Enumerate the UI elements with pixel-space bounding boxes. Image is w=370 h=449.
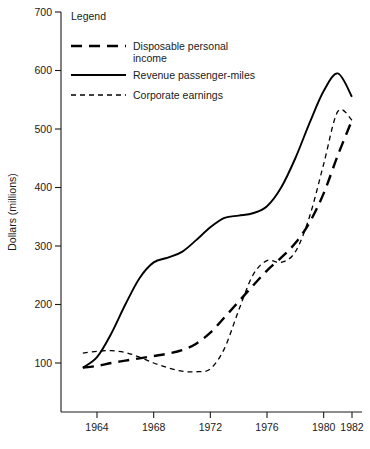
- x-tick-label: 1982: [340, 421, 364, 433]
- chart-legend: Legend Disposable personalincomeRevenue …: [71, 10, 255, 101]
- legend-label: Corporate earnings: [133, 89, 223, 101]
- x-tick-label: 1964: [85, 421, 109, 433]
- y-tick-label: 500: [34, 123, 52, 135]
- legend-label: Revenue passenger-miles: [133, 69, 255, 81]
- y-tick-label: 300: [34, 240, 52, 252]
- x-tick-label: 1972: [199, 421, 223, 433]
- y-tick-label: 400: [34, 181, 52, 193]
- series-line: [83, 109, 352, 372]
- legend-title: Legend: [71, 10, 106, 22]
- legend-label: Disposable personalincome: [133, 40, 228, 64]
- y-tick-label: 700: [34, 6, 52, 18]
- x-tick-label: 1976: [255, 421, 279, 433]
- series-line: [83, 120, 352, 367]
- y-tick-label: 100: [34, 357, 52, 369]
- legend-entries: Disposable personalincomeRevenue passeng…: [71, 40, 255, 101]
- chart-container: 100200300400500600700 196419681972197619…: [0, 0, 370, 449]
- line-chart: 100200300400500600700 196419681972197619…: [0, 0, 370, 449]
- y-tick-label: 600: [34, 64, 52, 76]
- y-axis-ticks: 100200300400500600700: [34, 6, 61, 369]
- x-tick-label: 1980: [312, 421, 336, 433]
- y-axis-title-label: Dollars (millions): [6, 173, 18, 251]
- series-lines: [83, 73, 352, 372]
- y-axis-title: Dollars (millions): [6, 173, 18, 251]
- y-tick-label: 200: [34, 298, 52, 310]
- x-axis-ticks: 196419681972197619801982: [85, 412, 364, 433]
- x-tick-label: 1968: [142, 421, 166, 433]
